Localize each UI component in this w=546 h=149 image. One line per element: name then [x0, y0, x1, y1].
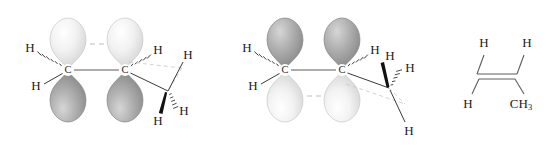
hashed-bond-methyl-h: [391, 70, 402, 85]
h-methyl-wedge-label: H: [385, 48, 394, 63]
bond-to-h-top-right: [517, 55, 524, 74]
panel-orbital-structure-right: C C H H H H H H: [242, 18, 414, 138]
carbon-1-label: C: [64, 64, 71, 75]
construction-dashed-right: [389, 88, 405, 104]
bond-to-methyl: [515, 79, 524, 94]
chemistry-figure: C C H H H H H H: [0, 0, 546, 149]
h-methyl-plain-label: H: [183, 47, 192, 62]
h-bottom-left-label: H: [463, 96, 472, 111]
h-c1-plain-label: H: [31, 78, 40, 93]
plain-bond-methyl-h: [390, 90, 405, 122]
plain-bond-methyl-h: [168, 62, 183, 91]
lobe-lower-light: [324, 70, 360, 122]
h-c2-hashed-label: H: [370, 42, 379, 57]
h-methyl-hashed-label: H: [405, 60, 414, 75]
h-methyl-wedge-label: H: [153, 113, 162, 128]
carbon-2-label: C: [121, 64, 128, 75]
h-c1-plain-label: H: [248, 78, 257, 93]
carbon-1-label: C: [281, 64, 288, 75]
methyl-subscript: 3: [528, 102, 532, 112]
h-top-right-label: H: [522, 35, 531, 50]
figure-canvas: C C H H H H H H: [0, 0, 546, 149]
panel-skeletal-structure: H H H CH3: [463, 35, 532, 112]
construction-dashed-upper: [129, 62, 182, 68]
methyl-group-label: CH3: [510, 96, 532, 112]
h-c2-hashed-label: H: [153, 42, 162, 57]
h-top-left-label: H: [479, 35, 488, 50]
wedge-bond-methyl-h: [381, 62, 390, 88]
wedge-bond-methyl-h: [159, 92, 167, 114]
h-c1-hashed-label: H: [242, 40, 251, 55]
hashed-bond-methyl-h: [169, 94, 178, 109]
h-c1-hashed-label: H: [25, 40, 34, 55]
h-methyl-hashed-label: H: [179, 103, 188, 118]
bond-to-h-top-left: [477, 55, 484, 74]
bond-to-h-bottom-left: [472, 79, 479, 94]
h-methyl-plain-label: H: [404, 123, 413, 138]
panel-orbital-structure-left: C C H H H H H H: [25, 18, 192, 128]
methyl-ch: CH: [510, 96, 528, 111]
carbon-2-label: C: [338, 64, 345, 75]
lobe-lower-dark: [107, 70, 143, 122]
